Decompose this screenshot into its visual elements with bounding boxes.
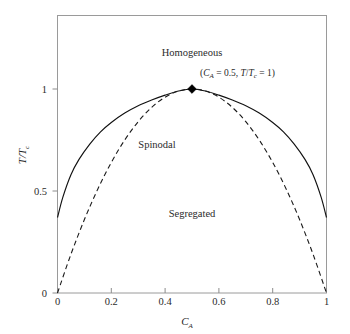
x-tick-label-0: 0 [55, 296, 60, 307]
critical-point-label: (CA = 0.5, T/Tc = 1) [200, 68, 275, 80]
x-tick-label-4: 0.8 [266, 296, 279, 307]
critical-label-eq2: = 1) [257, 68, 275, 79]
x-axis-ticks [58, 288, 327, 293]
y-axis-ticks [53, 89, 58, 293]
svg-text:CA: CA [181, 315, 193, 330]
region-label-homogeneous: Homogeneous [162, 47, 223, 58]
y-tick-label-0: 0 [42, 288, 47, 299]
chart-page: 0 0.2 0.4 0.6 0.8 1 0 0.5 1 CA T/Tc [0, 0, 350, 334]
x-axis-title: CA [181, 315, 193, 330]
x-tick-label-5: 1 [324, 296, 329, 307]
x-tick-label-3: 0.6 [212, 296, 225, 307]
svg-text:T/Tc: T/Tc [16, 145, 31, 164]
y-axis-title: T/Tc [16, 145, 31, 164]
critical-label-eq1: = 0.5, [214, 68, 241, 78]
x-tick-label-1: 0.2 [105, 296, 118, 307]
phase-diagram-chart: 0 0.2 0.4 0.6 0.8 1 0 0.5 1 CA T/Tc [0, 0, 350, 334]
x-tick-label-2: 0.4 [159, 296, 173, 307]
region-label-spinodal: Spinodal [138, 139, 175, 150]
critical-point-marker [188, 85, 197, 94]
y-axis-title-sub: c [23, 145, 31, 149]
y-tick-label-1: 0.5 [34, 186, 47, 197]
binodal-curve [58, 89, 327, 218]
spinodal-curve [58, 89, 327, 293]
region-label-segregated: Segregated [169, 208, 216, 219]
x-axis-title-sub: A [188, 322, 194, 330]
x-tick-labels: 0 0.2 0.4 0.6 0.8 1 [55, 296, 329, 307]
y-tick-labels: 0 0.5 1 [34, 84, 47, 299]
y-tick-label-2: 1 [42, 84, 47, 95]
